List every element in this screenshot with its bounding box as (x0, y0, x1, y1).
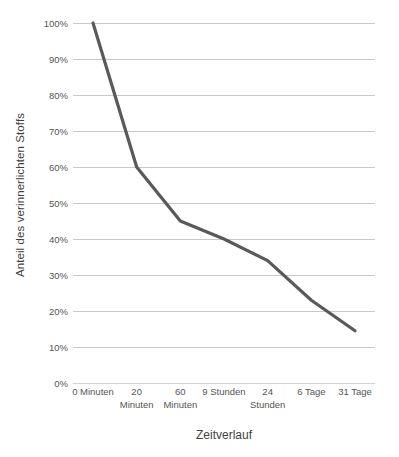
y-tick-label-30: 30% (32, 270, 68, 281)
x-tick-label-line2: Minuten (140, 399, 220, 412)
y-axis-tick-labels: 100%90%80%70%60%50%40%30%20%10%0% (34, 23, 70, 383)
x-axis-title: Zeitverlauf (73, 428, 375, 442)
x-axis-title-label: Zeitverlauf (196, 428, 252, 442)
y-tick-label-70: 70% (32, 126, 68, 137)
y-tick-label-60: 60% (32, 162, 68, 173)
y-tick-label-80: 80% (32, 90, 68, 101)
x-tick-label-line1: 31 Tage (338, 386, 372, 397)
y-tick-label-10: 10% (32, 342, 68, 353)
y-tick-label-20: 20% (32, 306, 68, 317)
y-tick-label-40: 40% (32, 234, 68, 245)
forgetting-curve-chart: Anteil des verinnerlichten Stoffs 100%90… (0, 0, 399, 457)
series-polyline-anteil (93, 23, 355, 331)
gridline-0 (73, 383, 375, 384)
y-tick-label-100: 100% (32, 18, 68, 29)
x-tick-label-6: 31 Tage (315, 386, 395, 399)
plot-area (73, 23, 375, 383)
y-axis-title-label: Anteil des verinnerlichten Stoffs (14, 113, 26, 277)
series-line-chart (73, 23, 375, 383)
y-tick-label-90: 90% (32, 54, 68, 65)
x-axis-tick-labels: 0 Minuten20Minuten60Minuten9 Stunden24St… (73, 386, 375, 420)
y-tick-label-50: 50% (32, 198, 68, 209)
x-tick-label-line2: Stunden (228, 399, 308, 412)
